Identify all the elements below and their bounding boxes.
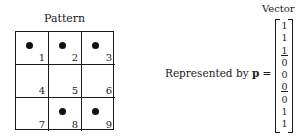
grid-cell-3: 3 xyxy=(82,32,115,65)
cell-number: 1 xyxy=(39,52,45,64)
cell-number: 9 xyxy=(106,119,112,131)
grid-cell-7: 7 xyxy=(16,98,49,131)
dot-icon xyxy=(59,108,66,115)
dot-icon xyxy=(59,42,66,49)
dot-icon xyxy=(92,108,99,115)
grid-cell-5: 5 xyxy=(49,65,82,98)
grid-cell-2: 2 xyxy=(49,32,82,65)
pattern-title: Pattern xyxy=(44,12,85,25)
grid-cell-9: 9 xyxy=(82,98,115,131)
cell-number: 6 xyxy=(106,85,112,97)
vector-title: Vector xyxy=(262,3,295,14)
cell-number: 7 xyxy=(39,119,45,131)
dot-icon xyxy=(26,42,33,49)
cell-number: 5 xyxy=(72,85,78,97)
right-bracket xyxy=(288,19,293,133)
represented-by-label: Represented by p = xyxy=(165,67,271,79)
cell-number: 4 xyxy=(39,85,45,97)
cell-number: 2 xyxy=(72,52,78,64)
grid-cell-6: 6 xyxy=(82,65,115,98)
grid-cell-4: 4 xyxy=(16,65,49,98)
dot-icon xyxy=(92,42,99,49)
cell-number: 8 xyxy=(72,119,78,131)
grid-cell-8: 8 xyxy=(49,98,82,131)
cell-number: 3 xyxy=(106,52,112,64)
grid-cell-1: 1 xyxy=(16,32,49,65)
pattern-grid: 1 2 3 4 5 6 7 8 9 xyxy=(15,31,114,130)
equals-sign: = xyxy=(259,67,271,79)
label-prefix: Represented by xyxy=(165,67,252,79)
